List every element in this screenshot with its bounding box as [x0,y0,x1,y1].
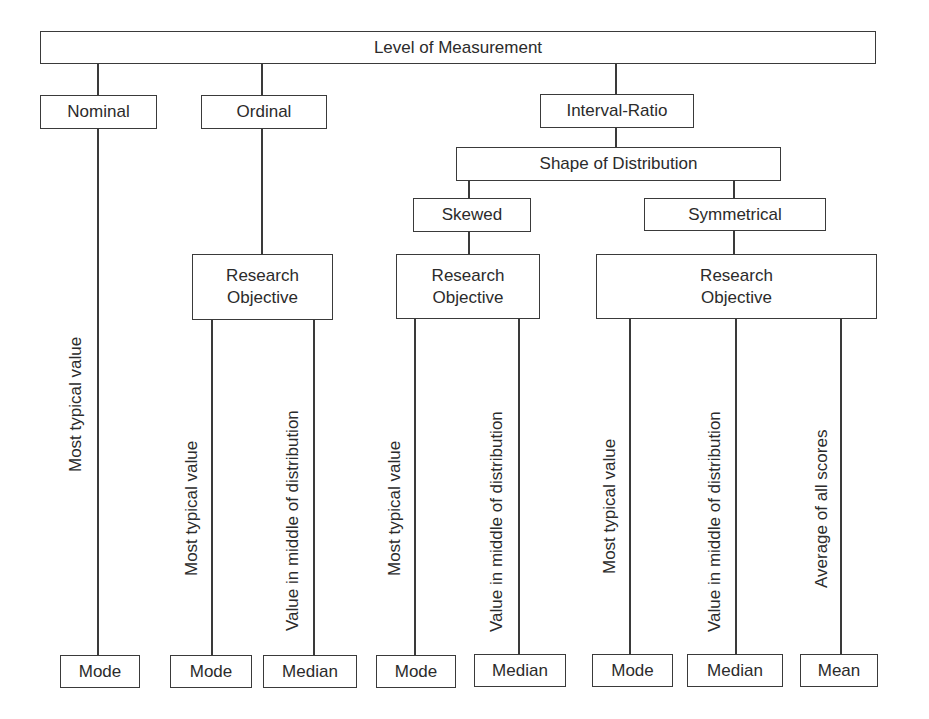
node-ordinal: Ordinal [201,95,327,129]
root-label: Level of Measurement [374,37,542,59]
label-ordinal-most-typical: Most typical value [182,441,202,576]
skewed-label: Skewed [442,204,502,226]
symmetrical-label: Symmetrical [688,204,782,226]
measure-skewed-mode: Mode [376,655,456,688]
measure-ordinal-median: Median [263,655,357,688]
connector-skewed-research-objective [468,231,470,254]
interval-ratio-label: Interval-Ratio [566,100,667,122]
mean-label: Mean [818,660,861,682]
node-symmetrical: Symmetrical [644,198,826,231]
measure-symmetrical-median: Median [687,654,783,687]
connector-shape-skewed [468,180,470,198]
label-skewed-middle: Value in middle of distribution [487,411,507,632]
node-skewed-research-objective: Research Objective [396,254,540,319]
label-symmetrical-middle: Value in middle of distribution [705,411,725,632]
connector-root-interval-ratio [615,63,617,94]
connector-symmetrical-median [735,318,737,655]
objective-label: Objective [227,287,298,309]
connector-shape-symmetrical [733,180,735,198]
label-ordinal-middle: Value in middle of distribution [283,410,303,631]
objective-label: Objective [433,287,504,309]
node-symmetrical-research-objective: Research Objective [596,254,877,319]
research-label: Research [226,265,299,287]
node-skewed: Skewed [413,198,531,232]
label-nominal-most-typical: Most typical value [66,337,86,472]
connector-symmetrical-mean [840,318,842,655]
connector-skewed-median [518,318,520,655]
connector-root-ordinal [261,63,263,95]
median-label: Median [707,660,763,682]
connector-skewed-mode [414,318,416,655]
connector-ordinal-research-objective [261,128,263,254]
mode-label: Mode [79,661,122,683]
connector-ordinal-mode [211,319,213,655]
connector-root-nominal [97,63,99,95]
nominal-label: Nominal [67,101,129,123]
measure-symmetrical-mode: Mode [592,654,673,687]
median-label: Median [492,660,548,682]
label-skewed-most-typical: Most typical value [385,441,405,576]
shape-of-distribution-label: Shape of Distribution [540,153,698,175]
mode-label: Mode [190,661,233,683]
mode-label: Mode [611,660,654,682]
connector-nominal-mode [97,128,99,655]
objective-label: Objective [701,287,772,309]
median-label: Median [282,661,338,683]
node-interval-ratio: Interval-Ratio [540,94,694,128]
research-label: Research [700,265,773,287]
connector-interval-ratio-shape [615,127,617,147]
connector-ordinal-median [313,319,315,655]
node-ordinal-research-objective: Research Objective [192,254,333,320]
node-nominal: Nominal [40,95,157,129]
ordinal-label: Ordinal [237,101,292,123]
measure-symmetrical-mean: Mean [800,654,878,687]
label-symmetrical-most-typical: Most typical value [600,439,620,574]
research-label: Research [432,265,505,287]
measure-skewed-median: Median [474,654,566,687]
measure-nominal-mode: Mode [60,655,140,688]
label-symmetrical-average: Average of all scores [812,430,832,588]
connector-symmetrical-research-objective [733,230,735,254]
root-level-of-measurement: Level of Measurement [40,31,876,64]
measure-ordinal-mode: Mode [170,655,252,688]
mode-label: Mode [395,661,438,683]
node-shape-of-distribution: Shape of Distribution [456,147,781,181]
connector-symmetrical-mode [629,318,631,655]
